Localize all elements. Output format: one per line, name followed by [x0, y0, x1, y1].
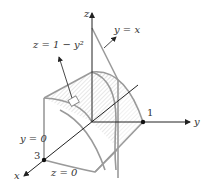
surface-equation-label: z = 1 − y²: [32, 39, 84, 50]
point-y1: [141, 120, 145, 124]
plane-z0-label: z = 0: [50, 167, 78, 178]
z-axis-label: z: [83, 8, 90, 19]
tick-label-y1: 1: [147, 107, 153, 118]
plane-yx-label: y = x: [113, 24, 140, 35]
tick-label-x3: 3: [34, 150, 40, 161]
y-axis-label: y: [193, 116, 200, 127]
point-x3: [42, 158, 46, 162]
plane-yx-pointer-arrow: [104, 37, 116, 48]
solid-region-diagram: z y x 1 3 z = 1 − y² y = x y = 0 z = 0: [0, 0, 206, 189]
x-axis-label: x: [14, 170, 20, 181]
plane-y0-label: y = 0: [19, 133, 47, 144]
